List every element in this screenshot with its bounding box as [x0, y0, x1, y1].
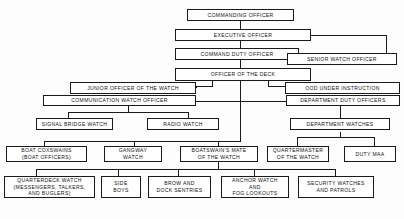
- node-brow-and-dock-sentries[interactable]: BROW AND DOCK SENTRIES: [148, 176, 211, 198]
- connector-bmow-down: [218, 162, 219, 169]
- node-quartermaster-of-the-watch[interactable]: QUARTERMASTER OF THE WATCH: [267, 146, 329, 162]
- connector-bottom-bus: [36, 169, 336, 170]
- node-ood-under-instruction[interactable]: OOD UNDER INSTRUCTION: [285, 82, 400, 94]
- node-boat-coxswains[interactable]: BOAT COXSWAINS (BOAT OFFICERS): [6, 146, 87, 162]
- connector-deptwatches-maa: [374, 137, 375, 146]
- node-communication-watch-officer[interactable]: COMMUNICATION WATCH OFFICER: [43, 95, 196, 106]
- connector-exo-swo-v: [386, 35, 387, 53]
- connector-bottom-brow: [178, 169, 179, 176]
- connector-bottom-quarterdeck: [36, 169, 37, 176]
- node-command-duty-officer[interactable]: COMMAND DUTY OFFICER: [175, 48, 299, 60]
- node-senior-watch-officer[interactable]: SENIOR WATCH OFFICER: [287, 53, 397, 65]
- connector-ood-oodui-h: [268, 86, 286, 87]
- connector-exo-swo-h: [310, 35, 387, 36]
- node-department-watches[interactable]: DEPARTMENT WATCHES: [290, 118, 390, 130]
- connector-ddo-deptwatches: [340, 106, 341, 118]
- connector-trunk-ddo: [240, 101, 286, 102]
- node-executive-officer[interactable]: EXECUTIVE OFFICER: [175, 29, 311, 41]
- connector-bottom-anchor: [254, 169, 255, 176]
- connector-bottom-security: [335, 169, 336, 176]
- node-boatswains-mate-of-the-watch[interactable]: BOATSWAIN'S MATE OF THE WATCH: [180, 146, 258, 162]
- connector-cdo-ood: [240, 60, 241, 68]
- node-gangway-watch[interactable]: GANGWAY WATCH: [104, 146, 162, 162]
- connector-ood-joow-drop: [196, 86, 197, 88]
- connector-cwo-bus: [68, 112, 189, 113]
- node-side-boys[interactable]: SIDE BOYS: [101, 176, 141, 198]
- connector-deptwatches-qmow: [297, 137, 298, 146]
- connector-ood-row7-bus: [44, 141, 241, 142]
- node-anchor-watch[interactable]: ANCHOR WATCH AND FOG LOOKOUTS: [221, 176, 289, 198]
- connector-deptwatches-bus: [297, 137, 375, 138]
- connector-bottom-sideboys: [118, 169, 119, 176]
- node-signal-bridge-watch[interactable]: SIGNAL BRIDGE WATCH: [36, 118, 113, 130]
- org-chart-canvas: COMMANDING OFFICER EXECUTIVE OFFICER COM…: [0, 0, 404, 219]
- connector-ood-joow-h: [196, 86, 213, 87]
- node-security-watches[interactable]: SECURITY WATCHES AND PATROLS: [298, 176, 374, 198]
- connector-trunk-cwo: [196, 101, 241, 102]
- node-radio-watch[interactable]: RADIO WATCH: [147, 118, 219, 130]
- connector-ood-trunk: [240, 81, 241, 141]
- node-officer-of-the-deck[interactable]: OFFICER OF THE DECK: [175, 68, 311, 81]
- node-commanding-officer[interactable]: COMMANDING OFFICER: [187, 9, 294, 21]
- node-department-duty-officers[interactable]: DEPARTMENT DUTY OFFICERS: [286, 95, 400, 106]
- node-junior-officer-of-the-watch[interactable]: JUNIOR OFFICER OF THE WATCH: [70, 82, 196, 94]
- node-quarterdeck-watch[interactable]: QUARTERDECK WATCH (MESSENGERS, TALKERS, …: [4, 176, 95, 198]
- node-duty-maa[interactable]: DUTY MAA: [344, 146, 396, 162]
